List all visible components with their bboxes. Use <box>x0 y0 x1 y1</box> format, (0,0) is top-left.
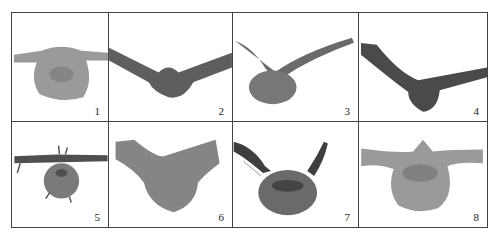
figure-panel-grid: 1 2 3 4 5 6 <box>11 12 488 228</box>
panel-label: 6 <box>219 211 225 223</box>
cross-section-image-2 <box>109 13 232 121</box>
panel-8: 8 <box>359 122 487 227</box>
cross-section-image-4 <box>359 13 487 121</box>
panel-label: 8 <box>474 211 480 223</box>
panel-label: 1 <box>95 105 101 117</box>
panel-4: 4 <box>359 13 487 122</box>
panel-label: 4 <box>474 105 480 117</box>
panel-6: 6 <box>109 122 233 227</box>
panel-label: 5 <box>95 211 101 223</box>
panel-label: 7 <box>345 211 351 223</box>
panel-1: 1 <box>12 13 109 122</box>
panel-label: 3 <box>345 105 351 117</box>
cross-section-image-3 <box>233 13 358 121</box>
cross-section-image-8 <box>359 122 487 227</box>
cross-section-image-6 <box>109 122 232 227</box>
panel-5: 5 <box>12 122 109 227</box>
panel-3: 3 <box>233 13 359 122</box>
panel-7: 7 <box>233 122 359 227</box>
panel-2: 2 <box>109 13 233 122</box>
panel-label: 2 <box>219 105 225 117</box>
cross-section-image-7 <box>233 122 358 227</box>
